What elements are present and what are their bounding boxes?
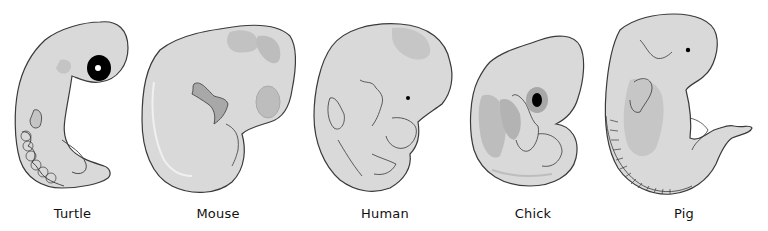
turtle-embryo-illustration bbox=[0, 0, 140, 205]
pig-embryo-illustration bbox=[600, 0, 768, 205]
mouse-eye bbox=[256, 86, 280, 118]
human-eye bbox=[406, 96, 410, 100]
turtle-eye-highlight bbox=[95, 65, 101, 71]
embryo-label-turtle: Turtle bbox=[0, 206, 145, 221]
human-embryo-illustration bbox=[300, 0, 470, 205]
embryo-label-chick: Chick bbox=[460, 206, 606, 221]
chick-embryo-illustration bbox=[460, 0, 605, 205]
chick-eye bbox=[532, 93, 542, 107]
embryo-panel-chick: Chick bbox=[460, 0, 605, 231]
embryo-panel-mouse: Mouse bbox=[130, 0, 310, 231]
embryo-label-human: Human bbox=[300, 206, 470, 221]
embryo-panel-turtle: Turtle bbox=[0, 0, 140, 231]
embryo-panel-pig: Pig bbox=[600, 0, 768, 231]
mouse-embryo-illustration bbox=[130, 0, 310, 205]
pig-eye bbox=[686, 48, 690, 52]
embryo-label-pig: Pig bbox=[600, 206, 768, 221]
embryo-panel-human: Human bbox=[300, 0, 470, 231]
turtle-body-shape bbox=[15, 22, 128, 188]
embryo-label-mouse: Mouse bbox=[130, 206, 306, 221]
